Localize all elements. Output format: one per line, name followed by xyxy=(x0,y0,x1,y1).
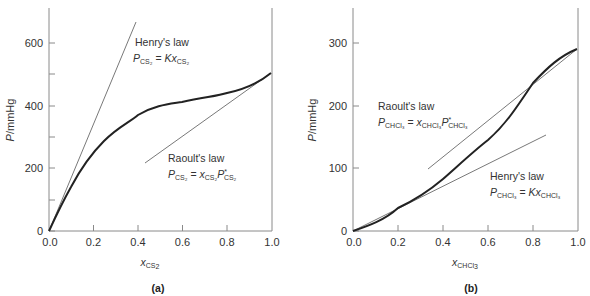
ytick-label: 300 xyxy=(329,37,347,49)
ytick-label: 100 xyxy=(329,162,347,174)
raoult-law-title-a: Raoult's law xyxy=(168,152,225,164)
y-ticks-b: 0 100 200 300 xyxy=(329,37,359,237)
henry-law-title-b: Henry's law xyxy=(490,170,544,182)
henry-line-b xyxy=(353,135,546,231)
xtick-label: 0.4 xyxy=(130,236,145,248)
chart-b: 0 100 200 300 0.0 0.2 0.4 0.6 0.8 1.0 P/… xyxy=(306,8,586,294)
x-axis-label-b: xCHCl3 xyxy=(451,256,478,270)
figure: 0 200 400 600 0.0 0.2 0.4 0.6 0.8 1.0 P/… xyxy=(0,0,590,296)
ytick-label: 200 xyxy=(329,100,347,112)
y-axis-label-a: P/mmHg xyxy=(4,99,16,142)
ytick-label: 400 xyxy=(25,100,43,112)
x-axis-label-a: xCS2 xyxy=(140,256,160,270)
xtick-label: 1.0 xyxy=(264,236,279,248)
xtick-label: 0.0 xyxy=(42,236,57,248)
xtick-label: 0.8 xyxy=(219,236,234,248)
xtick-label: 0.8 xyxy=(525,236,540,248)
y-axis-label-b: P/mmHg xyxy=(306,99,318,142)
raoult-law-equation-b: PCHCl₃ = xCHCl₃P*CHCl₃ xyxy=(378,116,468,129)
x-ticks-a: 0.0 0.2 0.4 0.6 0.8 1.0 xyxy=(42,225,279,248)
ytick-label: 200 xyxy=(25,162,43,174)
xtick-label: 0.6 xyxy=(480,236,495,248)
x-ticks-b: 0.0 0.2 0.4 0.6 0.8 1.0 xyxy=(346,225,585,248)
ytick-label: 600 xyxy=(25,37,43,49)
raoult-law-equation-a: PCS₂ = xCS₂P*CS₂ xyxy=(168,168,237,181)
xtick-label: 0.6 xyxy=(175,236,190,248)
xtick-label: 0.2 xyxy=(86,236,101,248)
henry-law-title-a: Henry's law xyxy=(135,36,189,48)
panel-label-b: (b) xyxy=(464,282,477,294)
henry-law-equation-b: PCHCl₃ = KxCHCl₃ xyxy=(490,186,561,199)
panel-label-a: (a) xyxy=(152,282,165,294)
raoult-line-b xyxy=(428,49,577,169)
y-ticks-a: 0 200 400 600 xyxy=(25,37,55,237)
xtick-label: 0.4 xyxy=(435,236,450,248)
xtick-label: 0.2 xyxy=(390,236,405,248)
raoult-line-a xyxy=(145,73,271,163)
xtick-label: 0.0 xyxy=(346,236,361,248)
raoult-law-title-b: Raoult's law xyxy=(378,100,435,112)
henry-law-equation-a: PCS₂ = KxCS₂ xyxy=(133,52,189,65)
xtick-label: 1.0 xyxy=(570,236,585,248)
chart-a: 0 200 400 600 0.0 0.2 0.4 0.6 0.8 1.0 P/… xyxy=(4,8,280,294)
